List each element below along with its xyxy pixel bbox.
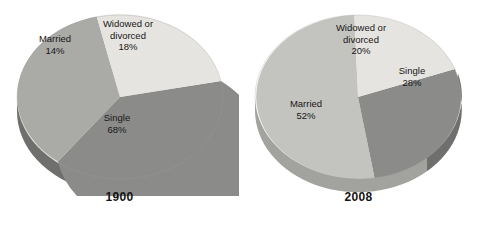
- pie-2008-svg: [239, 0, 478, 196]
- chart-2008: Widowed or divorced 20% Single 28% Marri…: [239, 0, 478, 226]
- pie-1900-svg: [0, 0, 239, 196]
- chart-caption-1900: 1900: [0, 190, 239, 204]
- pie-1900-graphic: [0, 0, 239, 196]
- chart-caption-2008: 2008: [239, 190, 478, 204]
- pie-2008-graphic: [239, 0, 478, 196]
- chart-1900: Widowed or divorced 18% Married 14% Sing…: [0, 0, 239, 226]
- pie-chart-figure: Widowed or divorced 18% Married 14% Sing…: [0, 0, 478, 226]
